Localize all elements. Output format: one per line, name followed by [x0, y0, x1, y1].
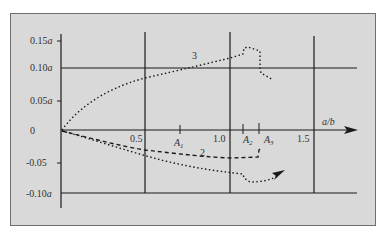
curve-1-arrow-icon [272, 170, 285, 180]
y-tick-label: 0.15a [30, 35, 53, 46]
curve-3-label: 3 [192, 50, 197, 61]
y-tick-label: 0 [30, 125, 35, 136]
y-tick-label: -0.05 [26, 157, 47, 168]
y-tick-label: 0.05a [30, 95, 53, 106]
x-tick-label: 1.5 [297, 133, 310, 144]
curve-3 [62, 47, 273, 130]
marker-A3: A3 [263, 134, 274, 147]
curve-2-label: 2 [200, 147, 205, 158]
chart-svg: 0.15a 0.10a 0.05a 0 -0.05 -0.10a 0.5 1.0… [0, 0, 385, 236]
marker-A2: A2 [242, 134, 253, 147]
x-axis-label: a/b [322, 116, 335, 127]
y-tick-label: 0.10a [30, 62, 53, 73]
marker-A1: A1 [173, 137, 184, 150]
y-tick-label: -0.10a [26, 188, 52, 199]
curve-2 [62, 131, 262, 158]
x-tick-label: 1.0 [213, 133, 226, 144]
x-tick-label: 0.5 [130, 133, 143, 144]
